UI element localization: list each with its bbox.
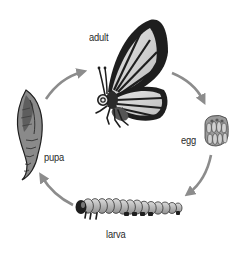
diagram-canvas bbox=[0, 0, 242, 254]
stage-label-egg: egg bbox=[181, 134, 196, 146]
stage-label-larva: larva bbox=[106, 228, 125, 240]
arrow-egg-to-larva bbox=[189, 155, 211, 193]
arrow-larva-to-pupa bbox=[42, 177, 73, 205]
arrow-adult-to-egg bbox=[172, 73, 203, 100]
egg-cluster-icon bbox=[205, 115, 228, 146]
stage-label-adult: adult bbox=[89, 31, 108, 43]
caterpillar-icon bbox=[76, 199, 183, 219]
arrow-pupa-to-adult bbox=[46, 72, 82, 99]
life-cycle-diagram: adult egg larva pupa bbox=[0, 0, 242, 254]
stage-label-pupa: pupa bbox=[44, 151, 64, 163]
chrysalis-icon bbox=[17, 90, 42, 180]
